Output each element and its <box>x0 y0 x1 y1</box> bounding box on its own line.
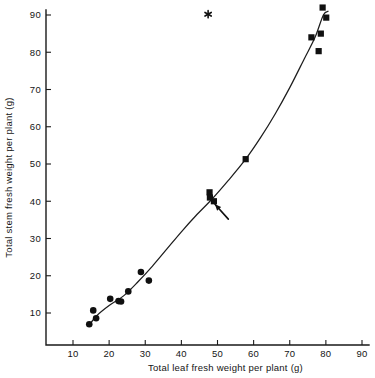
data-point-circle <box>118 298 125 305</box>
y-tick-label: 60 <box>30 121 41 132</box>
figure-container: 102030405060708090102030405060708090 Tot… <box>0 0 375 378</box>
data-point-circle <box>146 277 153 284</box>
fit-curve-path <box>89 11 329 326</box>
x-tick-label: 10 <box>67 348 78 359</box>
y-tick-label: 30 <box>30 233 41 244</box>
y-tick-label: 20 <box>30 270 41 281</box>
x-axis-title: Total leaf fresh weight per plant (g) <box>148 362 303 373</box>
axis-titles: Total leaf fresh weight per plant (g)Tot… <box>3 97 303 373</box>
x-tick-label: 40 <box>176 348 187 359</box>
data-point-square <box>320 4 326 10</box>
data-point-square <box>243 156 249 162</box>
x-tick-label: 60 <box>248 348 259 359</box>
tick-labels: 102030405060708090102030405060708090 <box>30 9 368 359</box>
data-point-circle <box>138 269 145 276</box>
x-tick-label: 20 <box>104 348 115 359</box>
x-tick-label: 50 <box>212 348 223 359</box>
axes <box>46 10 369 345</box>
y-tick-label: 40 <box>30 196 41 207</box>
data-point-circle <box>107 296 114 303</box>
y-tick-label: 80 <box>30 47 41 58</box>
fit-curve <box>89 11 329 326</box>
data-point-circle <box>90 307 97 314</box>
data-point-circle <box>86 321 93 328</box>
y-tick-label: 10 <box>30 307 41 318</box>
y-tick-label: 90 <box>30 9 41 20</box>
data-point-square <box>323 15 329 21</box>
data-point-square <box>316 48 322 54</box>
x-tick-label: 90 <box>356 348 367 359</box>
data-point-circle <box>93 315 100 322</box>
scatter-plot: 102030405060708090102030405060708090 Tot… <box>0 0 375 378</box>
y-axis-title: Total stem fresh weight per plant (g) <box>3 97 14 257</box>
x-tick-label: 70 <box>284 348 295 359</box>
data-point-circle <box>125 288 132 295</box>
annotations <box>205 11 228 219</box>
x-tick-label: 80 <box>320 348 331 359</box>
tick-marks <box>46 15 362 345</box>
axis-spines <box>46 10 369 345</box>
x-tick-label: 30 <box>140 348 151 359</box>
data-point-square <box>318 31 324 37</box>
data-point-square <box>211 198 217 204</box>
y-tick-label: 50 <box>30 158 41 169</box>
y-tick-label: 70 <box>30 84 41 95</box>
data-points <box>86 4 329 327</box>
data-point-square <box>308 34 314 40</box>
